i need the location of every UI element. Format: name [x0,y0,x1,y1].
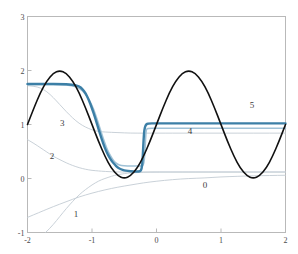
y-tick-label: 2 [21,67,25,76]
curve-label-2: 2 [50,151,55,161]
x-tick-label: 0 [155,236,159,245]
y-tick-label: 1 [21,121,25,130]
y-tick-label: 0 [21,175,25,184]
curve-label-3: 3 [60,118,65,128]
x-tick-label: 2 [284,236,288,245]
x-tick-label: -2 [24,236,31,245]
curve-label-1: 1 [74,209,79,219]
curve-label-0: 0 [203,180,208,190]
curve-label-5: 5 [250,100,255,110]
chart-background [0,0,298,254]
chart-figure: -10123 -2-1012 012345 [0,0,298,254]
y-tick-label: 3 [21,13,25,22]
x-tick-label: -1 [89,236,96,245]
x-tick-label: 1 [219,236,223,245]
curve-label-4: 4 [188,126,193,136]
approximation-convergence-chart: -10123 -2-1012 012345 [0,0,298,254]
